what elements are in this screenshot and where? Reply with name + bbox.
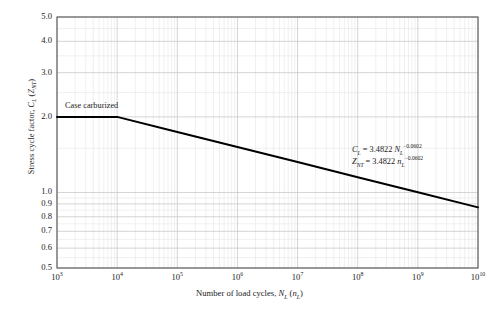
- x-tick-base: 10: [232, 272, 241, 282]
- x-tick-label: 106: [217, 272, 257, 282]
- eq1-operator: = 3.4822: [361, 145, 395, 154]
- x-tick-exponent: 4: [120, 271, 123, 277]
- y-tick-label: 0.5: [26, 262, 52, 272]
- y-axis-title-sub1: L: [31, 99, 37, 102]
- x-tick-exponent: 3: [60, 271, 63, 277]
- y-axis-title-sym2: Z: [27, 89, 36, 94]
- x-tick-label: 109: [398, 272, 438, 282]
- y-tick-label: 1.0: [26, 186, 52, 196]
- x-tick-base: 10: [111, 272, 120, 282]
- x-tick-label: 103: [37, 272, 77, 282]
- y-tick-label: 5.0: [26, 11, 52, 21]
- x-tick-exponent: 8: [361, 271, 364, 277]
- x-tick-label: 104: [97, 272, 137, 282]
- x-axis-title-post: ): [300, 288, 303, 298]
- x-axis-title: Number of load cycles, NL (nL): [0, 288, 499, 298]
- equation-znt-annotation: ZNT = 3.4822 nL−0.0602: [352, 157, 423, 166]
- y-axis-title-mid: (: [27, 94, 36, 99]
- x-tick-label: 107: [278, 272, 318, 282]
- y-tick-label: 0.9: [26, 198, 52, 208]
- x-tick-base: 10: [352, 272, 361, 282]
- x-axis-title-pre: Number of load cycles,: [196, 288, 278, 298]
- x-tick-exponent: 6: [240, 271, 243, 277]
- y-axis-title-sub2: NT: [31, 82, 37, 89]
- eq1-exponent: −0.0602: [403, 143, 422, 149]
- x-tick-exponent: 9: [421, 271, 424, 277]
- x-tick-label: 108: [338, 272, 378, 282]
- x-tick-base: 10: [51, 272, 60, 282]
- equation-cl-annotation: CL = 3.4822 NL−0.0602: [352, 145, 422, 154]
- curve-label: Case carburized: [65, 101, 118, 110]
- y-tick-label: 0.6: [26, 242, 52, 252]
- x-tick-exponent: 5: [180, 271, 183, 277]
- x-tick-exponent: 10: [479, 271, 485, 277]
- eq2-variable-subscript: L: [401, 162, 404, 168]
- x-tick-exponent: 7: [300, 271, 303, 277]
- y-tick-label: 3.0: [26, 67, 52, 77]
- stress-cycle-factor-chart: [0, 0, 499, 314]
- x-tick-label: 105: [157, 272, 197, 282]
- chart-figure: Stress cycle factor, CL (ZNT) Number of …: [0, 0, 499, 314]
- y-tick-label: 2.0: [26, 111, 52, 121]
- eq2-exponent: −0.0602: [405, 155, 424, 161]
- eq2-operator: = 3.4822: [364, 157, 398, 166]
- x-tick-label: 1010: [458, 272, 498, 282]
- y-tick-label: 4.0: [26, 35, 52, 45]
- y-tick-label: 0.7: [26, 225, 52, 235]
- y-axis-title-sym1: C: [27, 102, 36, 108]
- eq2-subscript: NT: [357, 162, 364, 168]
- y-tick-label: 0.8: [26, 211, 52, 221]
- x-tick-base: 10: [172, 272, 181, 282]
- y-axis-title-post: ): [27, 79, 36, 82]
- eq1-variable-subscript: L: [400, 150, 403, 156]
- x-tick-base: 10: [412, 272, 421, 282]
